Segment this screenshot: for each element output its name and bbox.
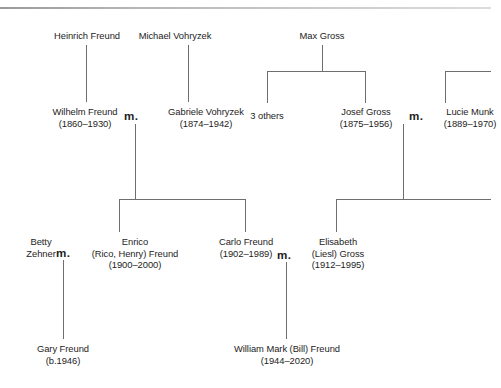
person-dates: (b.1946) (22, 355, 104, 367)
person-michael-vohryzek: Michael Vohryzek (100, 30, 250, 42)
person-name-line2: (Liesl) Gross (298, 248, 378, 260)
person-name-line1: Enrico (76, 236, 194, 248)
connector-wilhelm-gabriele-children-bar (119, 199, 246, 200)
person-three-others: 3 others (237, 110, 297, 122)
connector-drop-three-others (267, 71, 268, 103)
person-name-line2: (Rico, Henry) Freund (76, 248, 194, 260)
person-dates: (1900–2000) (76, 259, 194, 271)
person-dates: (1912–1995) (298, 259, 378, 271)
connector-drop-elisabeth-gross (336, 199, 337, 232)
person-dates: (1875–1956) (323, 118, 409, 130)
connector-drop-lucie-munk (445, 71, 446, 103)
connector-michael-to-gabriele (188, 45, 189, 102)
connector-drop-josef-gross (365, 71, 366, 103)
person-dates: (1889–1970) (427, 118, 501, 130)
person-elisabeth-gross: Elisabeth (Liesl) Gross (1912–1995) (298, 236, 378, 271)
connector-drop-carlo-freund (245, 199, 246, 232)
person-name: 3 others (237, 110, 297, 122)
connector-josef-lucie-children-bar (336, 199, 491, 200)
person-name: Gary Freund (22, 343, 104, 355)
person-gary-freund: Gary Freund (b.1946) (22, 343, 104, 366)
connector-josef-lucie-marriage-stem (403, 124, 404, 200)
person-max-gross: Max Gross (262, 30, 382, 42)
person-name: Max Gross (262, 30, 382, 42)
marriage-mark-betty-enrico: m. (56, 247, 70, 259)
person-william-freund: William Mark (Bill) Freund (1944–2020) (212, 343, 362, 366)
marriage-mark-wilhelm-gabriele: m. (124, 110, 138, 122)
marriage-mark-carlo-elisabeth: m. (277, 249, 291, 261)
marriage-mark-josef-lucie: m. (409, 110, 423, 122)
connector-heinrich-to-wilhelm (86, 45, 87, 102)
person-lucie-munk: Lucie Munk (1889–1970) (427, 106, 501, 129)
connector-max-gross-sibling-bar (267, 71, 366, 72)
person-name-line1: Elisabeth (298, 236, 378, 248)
connector-wilhelm-gabriele-marriage-stem (135, 124, 136, 200)
connector-max-gross-stem (322, 45, 323, 72)
connector-drop-enrico-freund (119, 199, 120, 232)
person-name: Josef Gross (323, 106, 409, 118)
person-name: Lucie Munk (427, 106, 501, 118)
person-dates: (1944–2020) (212, 355, 362, 367)
connector-carlo-elisabeth-to-william (286, 262, 287, 339)
person-josef-gross: Josef Gross (1875–1956) (323, 106, 409, 129)
top-divider-rule (0, 7, 491, 9)
person-name: Michael Vohryzek (100, 30, 250, 42)
connector-lucie-munk-parent-bar (445, 71, 491, 72)
person-enrico-freund: Enrico (Rico, Henry) Freund (1900–2000) (76, 236, 194, 271)
connector-betty-enrico-to-gary (63, 260, 64, 339)
person-name: Carlo Freund (198, 236, 294, 248)
person-name: William Mark (Bill) Freund (212, 343, 362, 355)
